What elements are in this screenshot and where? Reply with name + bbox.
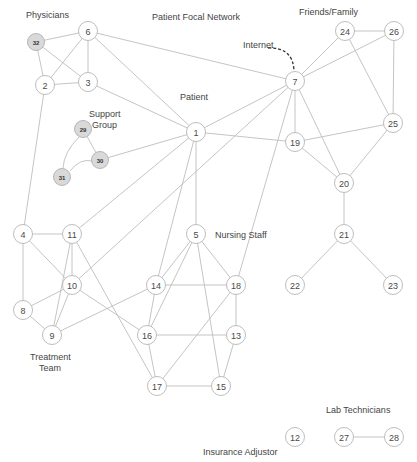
node-6[interactable]: 6 — [79, 22, 98, 41]
lab-technicians-label: Lab Technicians — [326, 405, 391, 415]
node-17[interactable]: 17 — [148, 377, 167, 396]
node-8[interactable]: 8 — [14, 301, 33, 320]
node-label: 1 — [193, 128, 198, 138]
node-5[interactable]: 5 — [187, 225, 206, 244]
edge-1-14 — [156, 132, 196, 285]
treatment-team-label-line2: Team — [39, 363, 61, 373]
node-22[interactable]: 22 — [286, 276, 305, 295]
edge-5-15 — [196, 234, 221, 386]
node-label: 26 — [389, 27, 399, 37]
edge-26-25 — [393, 31, 394, 123]
patient-focal-network-diagram: 1234567891011121314151617181920212223242… — [0, 0, 417, 462]
node-label: 12 — [290, 433, 300, 443]
node-label: 17 — [152, 382, 162, 392]
node-label: 21 — [339, 230, 349, 240]
node-28[interactable]: 28 — [385, 428, 404, 447]
node-19[interactable]: 19 — [286, 133, 305, 152]
edge-4-10 — [23, 234, 72, 285]
edge-10-16 — [72, 285, 147, 335]
node-label: 2 — [42, 81, 47, 91]
node-11[interactable]: 11 — [63, 225, 82, 244]
node-label: 19 — [290, 138, 300, 148]
physicians-label: Physicians — [26, 10, 70, 20]
internet-dashed-arrow — [268, 48, 294, 71]
node-32[interactable]: 32 — [28, 34, 45, 51]
edge-11-17 — [72, 234, 157, 386]
node-label: 14 — [151, 281, 161, 291]
nodes-layer: 1234567891011121314151617181920212223242… — [14, 22, 404, 447]
node-label: 32 — [33, 40, 40, 46]
node-23[interactable]: 23 — [384, 276, 403, 295]
node-label: 27 — [339, 433, 349, 443]
node-label: 11 — [67, 230, 76, 240]
node-label: 10 — [67, 281, 77, 291]
treatment-team-label-line1: Treatment — [30, 352, 71, 362]
edge-2-4 — [23, 85, 45, 234]
edge-1-7 — [196, 81, 295, 132]
node-13[interactable]: 13 — [227, 326, 246, 345]
node-label: 22 — [290, 281, 300, 291]
node-29[interactable]: 29 — [75, 121, 92, 138]
edge-31-30 — [70, 160, 92, 171]
node-2[interactable]: 2 — [36, 76, 55, 95]
support-group-label-line1: Support — [89, 109, 121, 119]
node-label: 5 — [193, 230, 198, 240]
diagram-title: Patient Focal Network — [152, 12, 241, 22]
edge-6-7 — [88, 31, 295, 81]
edge-21-22 — [295, 234, 344, 285]
node-label: 7 — [292, 77, 297, 87]
node-15[interactable]: 15 — [212, 377, 231, 396]
node-30[interactable]: 30 — [92, 152, 109, 169]
internet-label: Internet — [243, 40, 274, 50]
node-label: 29 — [80, 127, 87, 133]
node-label: 13 — [231, 331, 241, 341]
node-18[interactable]: 18 — [227, 276, 246, 295]
node-label: 23 — [388, 281, 398, 291]
edge-1-11 — [72, 132, 196, 234]
node-label: 28 — [389, 433, 399, 443]
node-3[interactable]: 3 — [79, 73, 98, 92]
node-label: 31 — [59, 175, 66, 181]
node-14[interactable]: 14 — [147, 276, 166, 295]
node-label: 8 — [20, 306, 25, 316]
node-31[interactable]: 31 — [54, 169, 71, 186]
edge-7-18 — [236, 81, 295, 285]
node-label: 24 — [340, 27, 350, 37]
node-label: 18 — [231, 281, 241, 291]
node-24[interactable]: 24 — [336, 22, 355, 41]
edge-7-20 — [295, 81, 344, 183]
edge-30-1 — [100, 132, 196, 160]
node-10[interactable]: 10 — [63, 276, 82, 295]
patient-label: Patient — [180, 92, 209, 102]
node-label: 3 — [85, 78, 90, 88]
node-label: 4 — [20, 230, 25, 240]
edge-7-24 — [295, 31, 345, 81]
node-27[interactable]: 27 — [335, 428, 354, 447]
node-label: 16 — [142, 331, 152, 341]
edge-24-25 — [345, 31, 393, 123]
edge-21-23 — [344, 234, 393, 285]
node-21[interactable]: 21 — [335, 225, 354, 244]
nursing-staff-label: Nursing Staff — [215, 230, 267, 240]
node-4[interactable]: 4 — [14, 225, 33, 244]
node-label: 15 — [216, 382, 226, 392]
node-1[interactable]: 1 — [187, 123, 206, 142]
edge-25-19 — [295, 123, 393, 142]
node-label: 6 — [85, 27, 90, 37]
node-7[interactable]: 7 — [286, 72, 305, 91]
node-label: 9 — [49, 331, 54, 341]
edge-29-31 — [63, 137, 79, 168]
insurance-adjustor-label: Insurance Adjustor — [203, 447, 278, 457]
node-label: 20 — [339, 179, 349, 189]
node-9[interactable]: 9 — [43, 326, 62, 345]
node-20[interactable]: 20 — [335, 174, 354, 193]
node-12[interactable]: 12 — [286, 428, 305, 447]
node-16[interactable]: 16 — [138, 326, 157, 345]
network-graph: 1234567891011121314151617181920212223242… — [0, 0, 417, 462]
node-26[interactable]: 26 — [385, 22, 404, 41]
node-label: 30 — [97, 158, 104, 164]
edge-25-20 — [344, 123, 393, 183]
node-25[interactable]: 25 — [384, 114, 403, 133]
support-group-label-line2: Group — [92, 120, 117, 130]
edge-18-17 — [157, 285, 236, 386]
